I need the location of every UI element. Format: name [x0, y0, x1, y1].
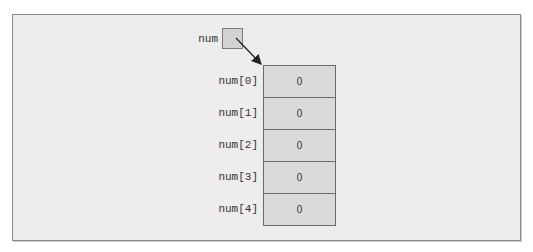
array-cell: 0	[263, 129, 336, 162]
array-index-label: num[4]	[190, 203, 258, 215]
array-index-label: num[2]	[190, 139, 258, 151]
array-cell: 0	[263, 161, 336, 194]
array-index-label: num[0]	[190, 75, 258, 87]
array-cell: 0	[263, 193, 336, 226]
array-index-label: num[3]	[190, 171, 258, 183]
array-cell: 0	[263, 97, 336, 130]
array-index-label: num[1]	[190, 107, 258, 119]
array-cell: 0	[263, 65, 336, 98]
